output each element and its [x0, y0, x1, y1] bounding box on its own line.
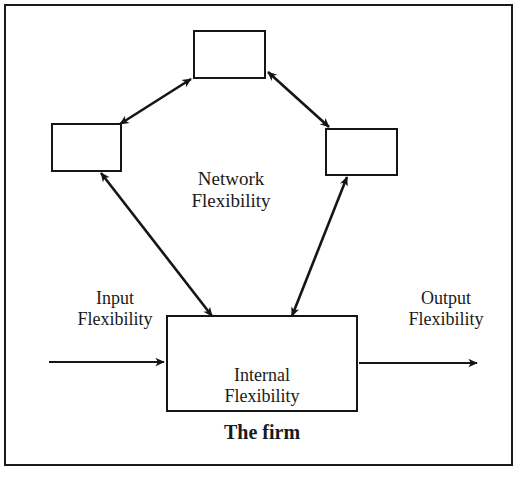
- network-node-right: [325, 128, 398, 176]
- network-flexibility-label: Network Flexibility: [166, 168, 296, 212]
- internal-flexibility-label: Internal Flexibility: [182, 365, 342, 407]
- output-flexibility-label: Output Flexibility: [384, 288, 508, 330]
- network-node-top: [193, 30, 266, 79]
- input-flexibility-label: Input Flexibility: [56, 288, 174, 330]
- network-node-left: [51, 123, 122, 172]
- the-firm-label: The firm: [182, 421, 342, 444]
- figure-canvas: Network Flexibility Input Flexibility Ou…: [0, 0, 527, 480]
